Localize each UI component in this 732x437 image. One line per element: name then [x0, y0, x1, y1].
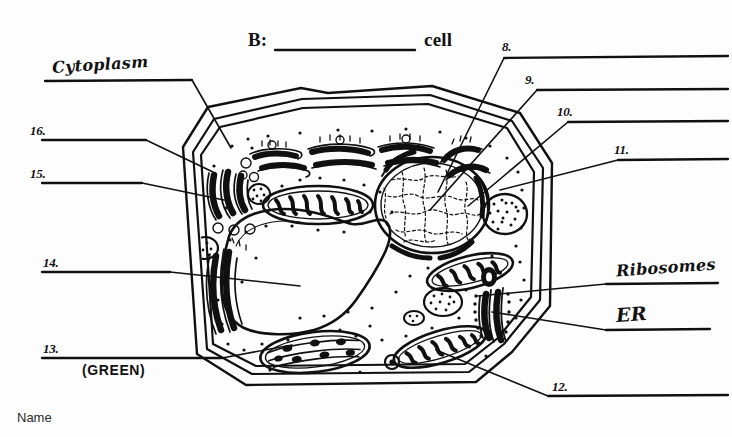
- number-8: 8.: [502, 40, 511, 53]
- answerline-12: [548, 395, 728, 396]
- answerline-11: [618, 159, 728, 160]
- leader-lines: [42, 56, 728, 396]
- answerline-9: [537, 89, 728, 90]
- number-11: 11.: [614, 143, 629, 156]
- nucleolus-stipple: [487, 199, 520, 231]
- answerline-ribosomes: [606, 283, 718, 284]
- leader-16: [146, 140, 213, 172]
- section-suffix: cell: [424, 30, 452, 49]
- number-13: 13.: [43, 342, 58, 355]
- number-15: 15.: [30, 167, 45, 180]
- number-16: 16.: [30, 124, 45, 137]
- section-prefix: B:: [248, 30, 267, 49]
- number-14: 14.: [43, 256, 58, 269]
- number-12: 12.: [552, 380, 567, 393]
- chromatin: [384, 168, 480, 244]
- golgi-apparatus: [239, 134, 440, 182]
- mitochondrion-upper-left: [263, 186, 373, 224]
- answerline-10: [568, 121, 728, 122]
- nucleus-envelope: [375, 157, 489, 253]
- number-9: 9.: [525, 73, 534, 86]
- answerline-8: [504, 56, 728, 58]
- cristae: [276, 196, 362, 214]
- label-er[interactable]: ER: [615, 304, 647, 325]
- leader-cytoplasm: [45, 80, 192, 81]
- name-field-label: Name: [17, 411, 52, 424]
- central-vacuole: [222, 209, 390, 334]
- answerline-er: [606, 329, 710, 330]
- label-green: (GREEN): [82, 363, 145, 377]
- worksheet-page: B: cell Cytoplasm Ribosomes ER (GREEN) 8…: [0, 0, 732, 437]
- number-10: 10.: [557, 105, 572, 118]
- leader-13: [222, 345, 292, 358]
